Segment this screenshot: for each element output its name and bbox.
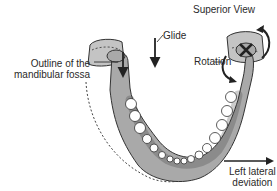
fossa-label-line2: mandibular fossa bbox=[14, 69, 90, 80]
deviation-label: Left lateral deviation bbox=[229, 166, 276, 188]
rotation-label: Rotation bbox=[194, 56, 231, 67]
deviation-arrowhead bbox=[266, 157, 274, 165]
glide-label: Glide bbox=[163, 30, 186, 41]
diagram-title: Superior View bbox=[193, 4, 255, 15]
fossa-label-line1: Outline of the bbox=[14, 58, 90, 69]
mandible-diagram bbox=[0, 0, 277, 191]
deviation-label-line1: Left lateral bbox=[229, 166, 276, 177]
deviation-label-line2: deviation bbox=[229, 177, 276, 188]
fossa-label: Outline of the mandibular fossa bbox=[14, 58, 90, 80]
